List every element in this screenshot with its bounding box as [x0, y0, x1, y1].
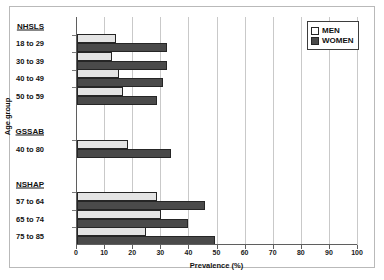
category-label: 30 to 39: [16, 56, 44, 65]
bar-women-40-to-80: [77, 149, 171, 158]
legend-swatch-men-icon: [311, 27, 319, 35]
plot-area: NHSLS18 to 2930 to 3940 to 4950 to 59GSS…: [76, 17, 357, 245]
group-header-gssab: GSSAB: [16, 127, 44, 136]
bar-men-50-to-59: [77, 87, 123, 96]
group-header-nshap: NSHAP: [16, 179, 44, 188]
category-label: 40 to 80: [16, 144, 44, 153]
legend-item-women: WOMEN: [311, 36, 354, 45]
x-tick-label: 60: [241, 249, 249, 256]
bar-men-18-to-29: [77, 34, 116, 43]
category-label: 75 to 85: [16, 232, 44, 241]
bar-men-65-to-74: [77, 210, 161, 219]
chart-figure: Age group Prevalence (%) NHSLS18 to 2930…: [0, 0, 384, 280]
legend-swatch-women-icon: [311, 37, 319, 45]
y-axis-title: Age group: [3, 82, 12, 152]
chart-legend: MEN WOMEN: [307, 21, 359, 50]
x-tick-label: 50: [213, 249, 221, 256]
category-label: 65 to 74: [16, 214, 44, 223]
bar-men-40-to-80: [77, 140, 128, 149]
bar-men-30-to-39: [77, 52, 112, 61]
gridline: [301, 17, 302, 245]
bar-men-40-to-49: [77, 69, 119, 78]
gridline: [188, 17, 189, 245]
x-tick-label: 0: [74, 249, 78, 256]
legend-item-men: MEN: [311, 26, 354, 35]
x-axis-title: Prevalence (%): [76, 261, 357, 270]
x-tick-label: 20: [128, 249, 136, 256]
x-tick-label: 100: [351, 249, 363, 256]
bar-men-57-to-64: [77, 192, 157, 201]
category-label: 50 to 59: [16, 91, 44, 100]
gridline: [329, 17, 330, 245]
category-label: 40 to 49: [16, 74, 44, 83]
gridline: [217, 17, 218, 245]
x-tick-label: 30: [156, 249, 164, 256]
legend-label-women: WOMEN: [322, 36, 354, 45]
category-label: 18 to 29: [16, 39, 44, 48]
x-axis-line: [76, 244, 357, 245]
legend-label-men: MEN: [322, 26, 340, 35]
bar-men-75-to-85: [77, 227, 146, 236]
gridline: [245, 17, 246, 245]
category-label: 57 to 64: [16, 197, 44, 206]
x-tick-label: 70: [269, 249, 277, 256]
gridline: [273, 17, 274, 245]
group-header-nhsls: NHSLS: [17, 21, 44, 30]
x-tick-label: 10: [100, 249, 108, 256]
x-tick-label: 90: [325, 249, 333, 256]
x-tick-label: 40: [184, 249, 192, 256]
bar-women-50-to-59: [77, 96, 157, 105]
y-axis-line: [76, 17, 77, 245]
x-tick-label: 80: [297, 249, 305, 256]
gridline: [357, 17, 358, 245]
